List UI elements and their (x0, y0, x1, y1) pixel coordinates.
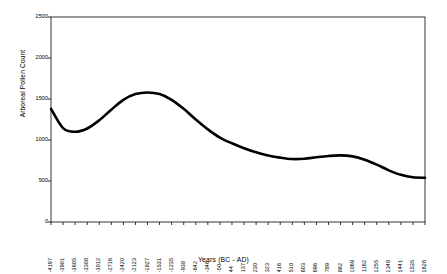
x-tick-label: 323 (265, 263, 270, 272)
x-tick-label: 230 (253, 263, 258, 272)
x-tick-label: 137 (241, 263, 246, 272)
plot-frame (51, 17, 425, 222)
x-tick-label: 603 (301, 263, 306, 272)
x-axis-tick-labels: -4197-3901-3605-3308-3012-2716-2420-2123… (0, 226, 447, 272)
x-tick-label: 510 (289, 263, 294, 272)
data-series-line (51, 92, 425, 177)
pollen-count-line-chart: Arboreal Pollen Count 050010001500200025… (0, 0, 447, 274)
x-axis-title: Years (BC - AD) (0, 256, 447, 263)
x-tick-label: 882 (338, 263, 343, 272)
x-tick-label: 789 (325, 263, 330, 272)
x-tick-label: 44 (229, 266, 234, 272)
x-tick-label: -50 (217, 264, 222, 272)
x-tick-label: 416 (277, 263, 282, 272)
x-tick-label: 696 (313, 263, 318, 272)
